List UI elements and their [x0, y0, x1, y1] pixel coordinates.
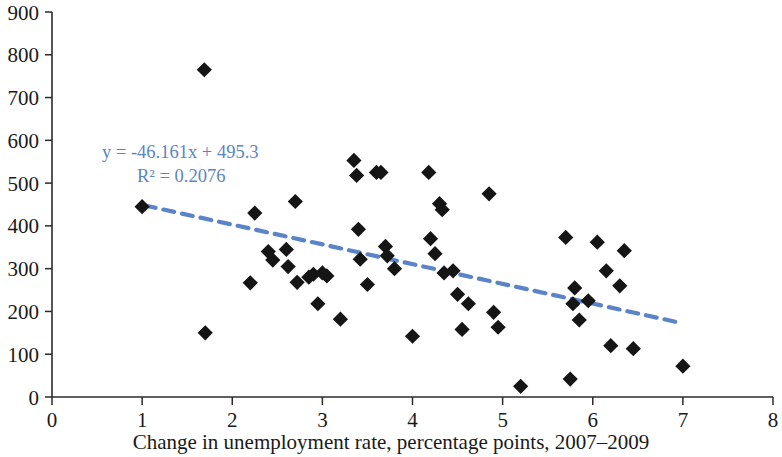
- data-point-marker: [333, 312, 348, 327]
- y-tick-label: 900: [8, 1, 40, 25]
- y-tick-label: 100: [8, 343, 40, 367]
- y-tick-label: 300: [8, 257, 40, 281]
- data-point-marker: [351, 222, 366, 237]
- x-tick-label: 5: [497, 408, 508, 432]
- data-point-marker: [387, 261, 402, 276]
- data-point-marker: [281, 259, 296, 274]
- r-squared-label: R² = 0.2076: [137, 166, 225, 186]
- y-tick-label: 800: [8, 43, 40, 67]
- data-point-marker: [603, 338, 618, 353]
- y-tick-label: 0: [29, 386, 40, 410]
- data-point-marker: [423, 231, 438, 246]
- data-point-marker: [450, 287, 465, 302]
- data-point-marker: [491, 320, 506, 335]
- scatter-plot-figure: 0100200300400500600700800900 012345678 y…: [0, 0, 782, 457]
- x-tick-label: 7: [678, 408, 689, 432]
- y-axis-tick-labels: 0100200300400500600700800900: [8, 1, 40, 410]
- data-point-marker: [572, 312, 587, 327]
- x-tick-label: 6: [588, 408, 599, 432]
- data-points: [135, 62, 691, 394]
- data-point-marker: [626, 341, 641, 356]
- chart-canvas: 0100200300400500600700800900 012345678 y…: [0, 0, 782, 457]
- x-tick-label: 1: [137, 408, 148, 432]
- y-tick-label: 200: [8, 300, 40, 324]
- y-tick-label: 700: [8, 86, 40, 110]
- data-point-marker: [243, 275, 258, 290]
- trendline: [145, 205, 683, 323]
- data-point-marker: [461, 296, 476, 311]
- data-point-marker: [513, 379, 528, 394]
- y-tick-label: 600: [8, 129, 40, 153]
- regression-trendline: [145, 205, 683, 323]
- regression-equation-label: y = -46.161x + 495.3: [102, 142, 259, 162]
- data-point-marker: [279, 242, 294, 257]
- data-point-marker: [567, 280, 582, 295]
- data-point-marker: [590, 235, 605, 250]
- x-tick-label: 4: [407, 408, 418, 432]
- data-point-marker: [563, 371, 578, 386]
- x-tick-label: 8: [768, 408, 779, 432]
- data-point-marker: [198, 325, 213, 340]
- data-point-marker: [454, 322, 469, 337]
- data-point-marker: [346, 153, 361, 168]
- data-point-marker: [405, 329, 420, 344]
- data-point-marker: [421, 165, 436, 180]
- data-point-marker: [599, 263, 614, 278]
- data-point-marker: [675, 359, 690, 374]
- data-point-marker: [482, 186, 497, 201]
- x-axis-tick-labels: 012345678: [47, 408, 779, 432]
- x-tick-label: 3: [317, 408, 328, 432]
- data-point-marker: [197, 62, 212, 77]
- y-tick-label: 500: [8, 172, 40, 196]
- x-tick-label: 0: [47, 408, 58, 432]
- data-point-marker: [288, 194, 303, 209]
- x-axis-title: Change in unemployment rate, percentage …: [133, 430, 650, 454]
- data-point-marker: [247, 205, 262, 220]
- data-point-marker: [612, 278, 627, 293]
- data-point-marker: [581, 293, 596, 308]
- regression-annotation: y = -46.161x + 495.3 R² = 0.2076: [102, 142, 259, 186]
- data-point-marker: [617, 243, 632, 258]
- x-tick-label: 2: [227, 408, 238, 432]
- y-tick-label: 400: [8, 214, 40, 238]
- data-point-marker: [310, 296, 325, 311]
- data-point-marker: [427, 246, 442, 261]
- data-point-marker: [360, 277, 375, 292]
- data-point-marker: [558, 230, 573, 245]
- data-point-marker: [349, 168, 364, 183]
- data-point-marker: [135, 199, 150, 214]
- data-point-marker: [486, 305, 501, 320]
